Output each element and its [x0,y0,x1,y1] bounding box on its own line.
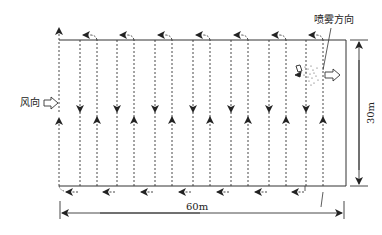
bottom-left-corner-curve [59,186,64,191]
spray-path-diagram [0,0,382,235]
spray-direction-arrow-icon [325,69,340,81]
flight-lines [80,40,323,186]
wind-direction-label: 风向 [20,98,40,108]
wind-arrow-icon [44,97,58,109]
height-dimension-label: 30m [366,102,376,124]
drone-icon [295,65,302,77]
spray-label-leader [323,28,331,70]
spray-direction-label: 喷雾方向 [314,15,354,25]
field-boundary [59,40,346,186]
width-dimension-label: 60m [186,202,208,212]
top-turn-arrows [83,35,323,40]
leader-line-2 [321,192,323,207]
